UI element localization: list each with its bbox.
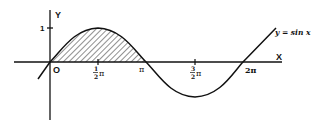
x-tick-label-half-pi-den: 2: [94, 73, 98, 80]
y-axis-label: Y: [55, 10, 61, 20]
sine-graph: Y X 1 O 1 2 π π 3 2 π 2π y = sin x: [0, 0, 318, 123]
x-tick-label-half-pi-sym: π: [99, 69, 104, 78]
x-tick-label-two-pi: 2π: [245, 65, 257, 75]
x-tick-label-three-half-pi-num: 3: [191, 65, 195, 72]
x-tick-label-half-pi-num: 1: [94, 65, 98, 72]
y-tick-label: 1: [40, 24, 45, 33]
x-axis-label: X: [276, 52, 282, 62]
origin-label: O: [53, 65, 60, 75]
x-tick-label-three-half-pi-sym: π: [196, 69, 201, 78]
x-tick-label-pi: π: [139, 65, 144, 74]
curve-label: y = sin x: [274, 28, 311, 37]
x-tick-label-three-half-pi-den: 2: [191, 73, 195, 80]
